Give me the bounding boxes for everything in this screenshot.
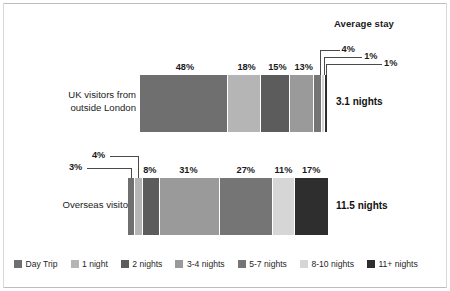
row-label-overseas: Overseas visitors — [0, 199, 136, 212]
legend-label-0: Day Trip — [26, 259, 58, 269]
callout-label-overseas-4pct: 4% — [92, 150, 105, 160]
frame-bottom-rule — [3, 287, 447, 288]
average-stay-value-overseas: 11.5 nights — [336, 200, 388, 211]
pct-label-overseas-3: 31% — [179, 165, 197, 175]
row-label-uk-line2: outside London — [0, 102, 136, 115]
pct-label-overseas-4: 27% — [237, 165, 255, 175]
legend-item-3[interactable]: 3-4 nights — [175, 259, 224, 269]
legend-swatch-icon-2 — [121, 260, 129, 268]
bar-segment-uk-6 — [325, 75, 327, 132]
average-stay-value-uk: 3.1 nights — [336, 96, 383, 107]
bar-segment-uk-2 — [261, 75, 289, 132]
bar-overseas — [128, 178, 328, 235]
legend-label-5: 8-10 nights — [311, 259, 354, 269]
legend-swatch-icon-0 — [14, 260, 22, 268]
pct-label-uk-0: 48% — [176, 62, 194, 72]
leader-overseas-4pct-vertical — [138, 156, 139, 178]
bar-segment-uk-4 — [314, 75, 322, 132]
pct-label-overseas-2: 8% — [143, 165, 156, 175]
frame-top-rule — [3, 3, 447, 4]
legend-swatch-icon-1 — [71, 260, 79, 268]
callout-label-overseas-3pct: 3% — [69, 162, 82, 172]
pct-label-uk-2: 15% — [268, 62, 286, 72]
bar-segment-overseas-5 — [273, 178, 295, 235]
pct-label-uk-3: 13% — [294, 62, 312, 72]
average-stay-title: Average stay — [334, 18, 394, 29]
callout-label-uk-1pct-b: 1% — [384, 58, 397, 68]
bar-segment-overseas-2 — [143, 178, 159, 235]
bar-segment-overseas-0 — [128, 178, 135, 235]
row-label-uk-line1: UK visitors from — [0, 89, 136, 102]
leader-uk-1pct-a-vertical — [324, 57, 325, 75]
legend-item-5[interactable]: 8-10 nights — [300, 259, 354, 269]
leader-uk-1pct-a-horizontal — [324, 57, 362, 58]
pct-label-uk-1: 18% — [237, 62, 255, 72]
legend-label-6: 11+ nights — [378, 259, 417, 269]
leader-uk-1pct-b-vertical — [326, 64, 327, 75]
bar-segment-overseas-6 — [295, 178, 328, 235]
legend-label-1: 1 night — [82, 259, 108, 269]
legend-item-0[interactable]: Day Trip — [14, 259, 58, 269]
row-label-overseas-line1: Overseas visitors — [0, 199, 136, 212]
leader-overseas-3pct-vertical — [131, 168, 132, 178]
leader-uk-1pct-b-horizontal — [326, 64, 382, 65]
leader-overseas-4pct-horizontal — [110, 156, 139, 157]
frame-right-edge — [446, 3, 447, 288]
legend: Day Trip1 night2 nights3-4 nights5-7 nig… — [14, 259, 438, 269]
row-label-uk: UK visitors from outside London — [0, 89, 136, 114]
legend-item-4[interactable]: 5-7 nights — [238, 259, 287, 269]
legend-label-2: 2 nights — [132, 259, 162, 269]
pct-label-overseas-6: 17% — [302, 165, 320, 175]
legend-swatch-icon-3 — [175, 260, 183, 268]
legend-swatch-icon-4 — [238, 260, 246, 268]
legend-item-1[interactable]: 1 night — [71, 259, 108, 269]
leader-overseas-3pct-horizontal — [87, 168, 132, 169]
leader-uk-4pct-horizontal — [320, 50, 340, 51]
bar-segment-uk-1 — [228, 75, 262, 132]
legend-item-2[interactable]: 2 nights — [121, 259, 163, 269]
pct-label-overseas-5: 11% — [274, 165, 292, 175]
frame-left-edge — [3, 3, 4, 288]
stacked-bar-chart: Average stay UK visitors from outside Lo… — [0, 0, 450, 291]
bar-segment-overseas-1 — [135, 178, 144, 235]
bar-segment-overseas-4 — [220, 178, 273, 235]
legend-label-3: 3-4 nights — [187, 259, 225, 269]
legend-item-6[interactable]: 11+ nights — [367, 259, 418, 269]
legend-swatch-icon-5 — [300, 260, 308, 268]
bar-uk — [140, 75, 327, 132]
callout-label-uk-1pct-a: 1% — [364, 51, 377, 61]
bar-segment-uk-0 — [140, 75, 228, 132]
legend-swatch-icon-6 — [367, 260, 375, 268]
legend-label-4: 5-7 nights — [249, 259, 287, 269]
bar-segment-uk-3 — [290, 75, 315, 132]
leader-uk-4pct-vertical — [320, 50, 321, 75]
bar-segment-overseas-3 — [160, 178, 221, 235]
callout-label-uk-4pct: 4% — [342, 44, 355, 54]
